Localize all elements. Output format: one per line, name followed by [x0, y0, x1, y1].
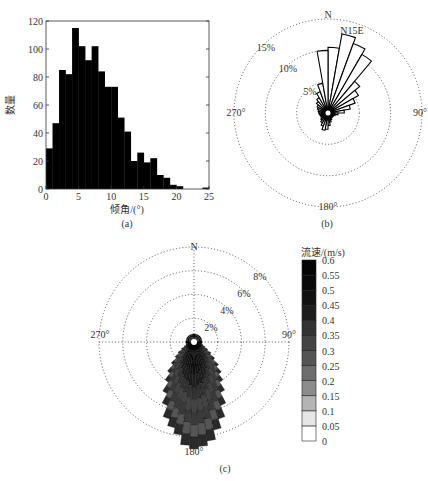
colorbar-bin — [302, 411, 316, 426]
west-label: 270° — [91, 329, 110, 340]
rose-petal-segment — [198, 434, 208, 446]
ring-label-4: 4% — [220, 305, 233, 316]
colorbar-tick-label: 0.5 — [322, 285, 335, 296]
rose-center-hole — [191, 339, 197, 345]
rose-petal-segment — [206, 429, 216, 441]
x-tick-label: 25 — [204, 191, 214, 202]
caption-b: (b) — [321, 218, 333, 230]
colorbar-tick-label: 0.3 — [322, 346, 335, 357]
south-label: 180° — [319, 201, 338, 212]
south-label: 180° — [185, 446, 204, 457]
x-tick-label: 0 — [44, 191, 49, 202]
rose-petal-segment — [198, 423, 207, 435]
ring-label-15: 15% — [257, 42, 275, 53]
rose-petal-segment — [181, 433, 190, 445]
rose-diagram-b: N 90° 180° 270° 5% 10% 15% N15E (b) — [227, 9, 428, 230]
colorbar-tick-label: 0.4 — [322, 315, 335, 326]
histogram-bars — [46, 28, 209, 189]
colorbar-tick-label: 0.35 — [322, 330, 340, 341]
x-tick-label: 20 — [171, 191, 181, 202]
ring-label-2: 2% — [204, 322, 217, 333]
histogram-bar — [118, 118, 125, 189]
histogram-bar — [124, 132, 131, 189]
rose-petal-segment — [188, 343, 189, 344]
histogram-bar — [131, 161, 138, 189]
ring-label-5: 5% — [303, 86, 316, 97]
histogram-panel: 0510152025 020406080100120 倾角/(°) 数量 (a) — [4, 16, 214, 231]
colorbar-bin — [302, 290, 316, 305]
histogram-bar — [137, 153, 144, 189]
ring-label-6: 6% — [237, 288, 250, 299]
colorbar-tick-label: 0.05 — [322, 421, 340, 432]
colorbar-tick-label: 0.15 — [322, 391, 340, 402]
y-tick-label: 100 — [28, 44, 43, 55]
rose-center-hole — [326, 111, 331, 116]
caption-c: (c) — [219, 463, 230, 475]
east-label: 90° — [413, 107, 427, 118]
colorbar-tick-label: 0.55 — [322, 270, 340, 281]
colorbar-bin — [302, 381, 316, 396]
y-tick-label: 120 — [28, 16, 43, 27]
colorbar-tick-label: 0.25 — [322, 361, 340, 372]
colorbar-bins — [302, 260, 316, 441]
north-label: N — [190, 241, 197, 252]
colorbar-bin — [302, 351, 316, 366]
y-tick-label: 0 — [38, 184, 43, 195]
colorbar-bin — [302, 320, 316, 335]
colorbar-bin — [302, 275, 316, 290]
rose-petal-segment — [191, 387, 196, 400]
histogram-bar — [46, 148, 53, 189]
colorbar-bin — [302, 426, 316, 441]
colorbar-bin — [302, 396, 316, 411]
rose-petal-segment — [190, 425, 198, 437]
histogram-bar — [176, 186, 183, 189]
histogram-bar — [59, 70, 66, 189]
x-axis-label: 倾角/(°) — [110, 203, 143, 216]
east-label: 90° — [282, 329, 296, 340]
ring-label-10: 10% — [279, 63, 297, 74]
west-label: 270° — [227, 107, 246, 118]
rose-petals-stacked — [162, 334, 226, 449]
x-tick-label: 10 — [106, 191, 116, 202]
rose-diagram-c: N 90° 180° 270° 2% 4% 6% 8% (c) — [91, 241, 297, 475]
colorbar-tick-label: 0 — [322, 436, 327, 447]
figure-canvas: 0510152025 020406080100120 倾角/(°) 数量 (a)… — [0, 0, 428, 481]
x-tick-label: 15 — [139, 191, 149, 202]
histogram-bar — [163, 178, 170, 189]
x-tick-label: 5 — [76, 191, 81, 202]
histogram-bar — [170, 185, 177, 189]
y-tick-label: 20 — [33, 156, 43, 167]
histogram-bar — [105, 87, 112, 189]
north-label: N — [324, 9, 331, 20]
rose-petal-segment — [190, 412, 197, 425]
colorbar-tick-label: 0.45 — [322, 300, 340, 311]
y-axis-label: 数量 — [4, 95, 16, 115]
colorbar-tick-label: 0.1 — [322, 406, 335, 417]
histogram-bar — [66, 74, 73, 189]
colorbar-tick-label: 0.2 — [322, 376, 335, 387]
colorbar-bin — [302, 366, 316, 381]
colorbar: 流速/(m/s) 0.60.550.50.450.40.350.30.250.2… — [301, 246, 345, 447]
histogram-bar — [92, 46, 99, 189]
colorbar-bin — [302, 335, 316, 350]
histogram-bar — [150, 158, 157, 189]
histogram-bar — [72, 28, 79, 189]
y-tick-label: 60 — [33, 100, 43, 111]
histogram-bar — [157, 175, 164, 189]
y-tick-label: 40 — [33, 128, 43, 139]
histogram-bar — [111, 87, 118, 189]
caption-a: (a) — [121, 218, 132, 230]
histogram-bar — [85, 60, 92, 189]
colorbar-bin — [302, 260, 316, 275]
histogram-bar — [98, 71, 105, 189]
rose-petal-segment — [191, 400, 197, 413]
colorbar-bin — [302, 305, 316, 320]
y-tick-label: 80 — [33, 72, 43, 83]
annotation-n15e: N15E — [340, 25, 363, 36]
ring-label-8: 8% — [253, 271, 266, 282]
colorbar-ticks: 0.60.550.50.450.40.350.30.250.20.150.10.… — [322, 255, 340, 447]
colorbar-tick-label: 0.6 — [322, 255, 335, 266]
histogram-bar — [79, 46, 86, 189]
rose-petals — [316, 34, 371, 130]
histogram-bar — [144, 162, 151, 189]
